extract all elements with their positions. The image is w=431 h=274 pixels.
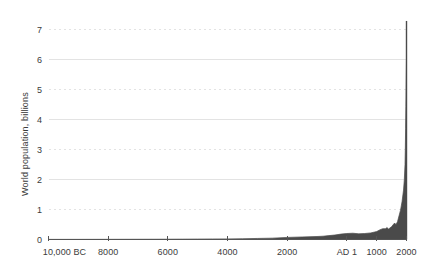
y-tick-label-0: 0 xyxy=(26,235,42,245)
x-tick-label-1: 8000 xyxy=(98,247,118,257)
x-tick-label-7: 2000 xyxy=(396,247,416,257)
y-tick-label-6: 6 xyxy=(26,55,42,65)
world-population-chart: 01234567 10,000 BC8000600040002000AD 110… xyxy=(0,0,431,274)
y-tick-label-1: 1 xyxy=(26,205,42,215)
x-tick-label-6: 1000 xyxy=(366,247,386,257)
y-tick-label-7: 7 xyxy=(26,25,42,35)
x-tick-label-3: 4000 xyxy=(217,247,237,257)
y-axis-title: World population, billions xyxy=(20,92,30,196)
population-area-series xyxy=(49,21,407,240)
gridlines xyxy=(49,30,407,210)
plot-area xyxy=(0,0,431,274)
x-tick-label-2: 6000 xyxy=(158,247,178,257)
x-tick-label-4: 2000 xyxy=(277,247,297,257)
x-tick-label-0: 10,000 BC xyxy=(43,247,86,257)
x-tick-label-5: AD 1 xyxy=(337,247,357,257)
